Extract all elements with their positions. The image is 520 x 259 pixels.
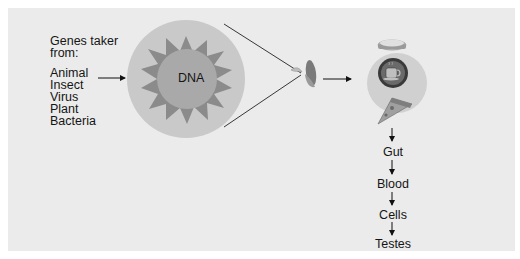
source-item: Bacteria — [50, 115, 96, 127]
pathway-step-testes: Testes — [375, 237, 411, 251]
coffee-cup-icon — [378, 58, 408, 88]
pathway-step-gut: Gut — [383, 145, 403, 159]
pathway-step-blood: Blood — [377, 177, 409, 191]
dna-label: DNA — [178, 72, 204, 84]
corn-cob-icon — [291, 59, 318, 87]
gene-source-list: Animal Insect Virus Plant Bacteria — [50, 67, 96, 127]
heading-line-2: from: — [50, 47, 118, 59]
gene-source-heading: Genes taker from: — [50, 35, 118, 59]
pathway-step-cells: Cells — [379, 208, 407, 222]
sandwich-icon — [378, 40, 406, 51]
